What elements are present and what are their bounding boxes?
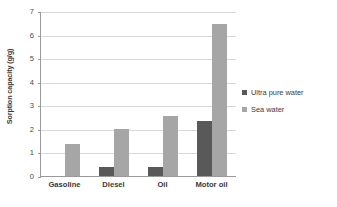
bar[interactable] bbox=[197, 121, 212, 176]
legend-label: Sea water bbox=[251, 105, 284, 114]
y-tick-label: 4 bbox=[18, 79, 34, 87]
y-axis-tick-labels: 01234567 bbox=[18, 12, 34, 177]
bar[interactable] bbox=[163, 116, 178, 176]
y-tick-label: 7 bbox=[18, 8, 34, 16]
x-tick-label: Oil bbox=[138, 180, 187, 189]
bar-group bbox=[90, 12, 139, 176]
y-axis-title: Sorption capacity (g/g) bbox=[2, 0, 18, 172]
y-axis-title-text: Sorption capacity (g/g) bbox=[6, 48, 15, 124]
bar[interactable] bbox=[65, 144, 80, 176]
bar[interactable] bbox=[114, 129, 129, 176]
y-tick-label: 6 bbox=[18, 32, 34, 40]
plot-area bbox=[40, 12, 236, 177]
bar[interactable] bbox=[99, 167, 114, 176]
x-axis-tick-labels: GasolineDieselOilMotor oil bbox=[40, 180, 236, 189]
bars-layer bbox=[41, 12, 236, 176]
x-tick-label: Gasoline bbox=[40, 180, 89, 189]
legend-item[interactable]: Ultra pure water bbox=[242, 88, 335, 97]
x-tick-label: Diesel bbox=[89, 180, 138, 189]
y-tick-label: 5 bbox=[18, 55, 34, 63]
bar-group bbox=[41, 12, 90, 176]
chart-legend: Ultra pure waterSea water bbox=[242, 88, 335, 122]
x-tick-label: Motor oil bbox=[187, 180, 236, 189]
legend-swatch-icon bbox=[242, 107, 247, 112]
y-tick-label: 2 bbox=[18, 126, 34, 134]
legend-label: Ultra pure water bbox=[251, 88, 304, 97]
bar[interactable] bbox=[148, 167, 163, 176]
y-tick-label: 1 bbox=[18, 150, 34, 158]
y-tick-mark bbox=[38, 177, 41, 178]
y-tick-label: 0 bbox=[18, 173, 34, 181]
legend-swatch-icon bbox=[242, 90, 247, 95]
bar-group bbox=[139, 12, 188, 176]
legend-item[interactable]: Sea water bbox=[242, 105, 335, 114]
y-tick-label: 3 bbox=[18, 102, 34, 110]
chart-figure: Sorption capacity (g/g) 01234567 Gasolin… bbox=[0, 0, 337, 207]
bar[interactable] bbox=[212, 24, 227, 176]
bar-group bbox=[187, 12, 236, 176]
